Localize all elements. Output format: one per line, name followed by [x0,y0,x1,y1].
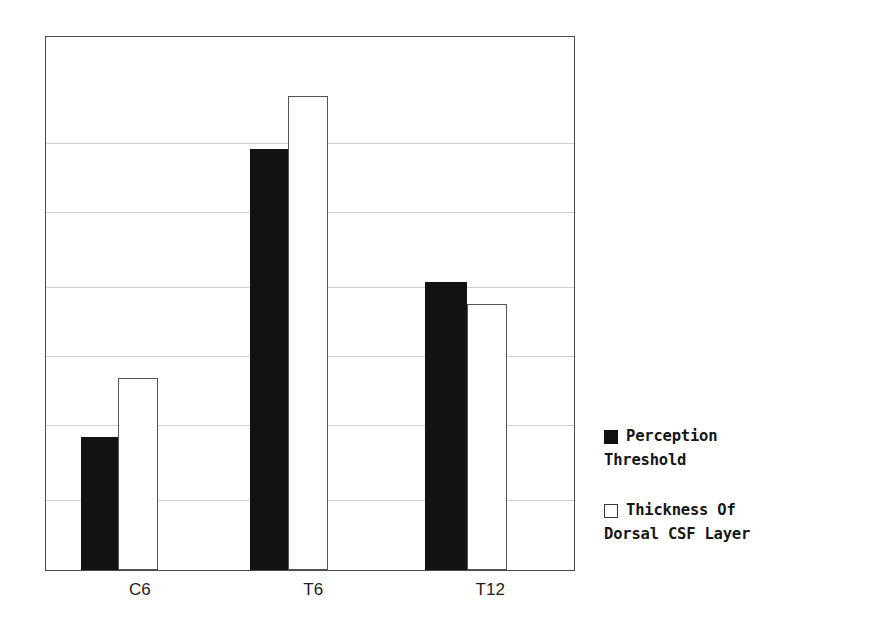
legend-hollow-square-icon [604,504,618,518]
bar-chart-figure: C6T6T12 Perception ThresholdThickness Of… [0,0,884,641]
bar [81,437,118,570]
x-tick-label: C6 [129,580,151,600]
chart-legend: Perception ThresholdThickness Of Dorsal … [604,424,876,546]
x-tick-label: T6 [303,580,323,600]
legend-entry: Thickness Of Dorsal CSF Layer [604,498,876,546]
x-tick-label: T12 [476,580,505,600]
x-axis-tick-labels: C6T6T12 [45,580,575,610]
bar [118,378,158,570]
bar [425,282,468,570]
legend-label: Perception Threshold [604,427,717,469]
bar [467,304,507,571]
bars-layer [46,37,574,570]
bar [250,149,288,570]
legend-entry: Perception Threshold [604,424,876,472]
legend-label: Thickness Of Dorsal CSF Layer [604,501,750,543]
plot-area [45,36,575,571]
bar [288,96,328,570]
legend-filled-square-icon [604,430,618,444]
